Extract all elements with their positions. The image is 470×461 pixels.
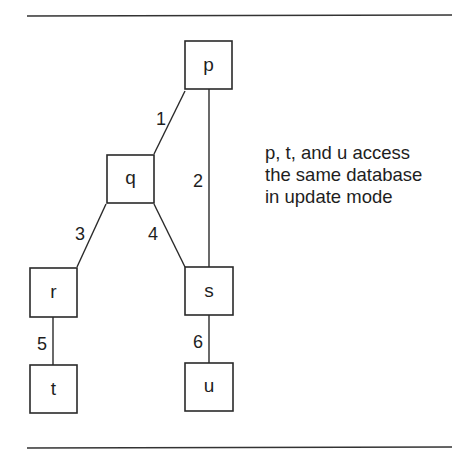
node-t: t bbox=[30, 365, 77, 413]
database-note: p, t, and u access the same database in … bbox=[265, 142, 422, 208]
node-label-q: q bbox=[125, 167, 136, 188]
node-q: q bbox=[107, 155, 154, 203]
edge-label-6: 6 bbox=[193, 332, 203, 352]
edge-label-2: 2 bbox=[193, 171, 203, 191]
edge-4: 4 bbox=[148, 204, 185, 267]
node-p: p bbox=[185, 41, 232, 89]
node-u: u bbox=[185, 363, 233, 411]
node-label-t: t bbox=[51, 378, 57, 399]
note-line-3: in update mode bbox=[265, 186, 422, 208]
edge-1: 1 bbox=[154, 91, 185, 154]
note-line-1: p, t, and u access bbox=[265, 142, 422, 164]
edge-label-5: 5 bbox=[37, 334, 47, 354]
edge-label-1: 1 bbox=[156, 109, 166, 129]
node-label-p: p bbox=[203, 54, 214, 75]
node-label-u: u bbox=[204, 375, 215, 396]
process-graph-diagram: 1 2 3 4 5 6 p q r s t u bbox=[0, 0, 470, 461]
node-label-r: r bbox=[50, 281, 57, 302]
node-label-s: s bbox=[204, 280, 214, 301]
node-s: s bbox=[185, 267, 233, 315]
edge-label-3: 3 bbox=[75, 224, 85, 244]
bottom-rule bbox=[27, 447, 452, 448]
edge-3: 3 bbox=[75, 204, 106, 267]
top-rule bbox=[27, 15, 452, 16]
note-line-2: the same database bbox=[265, 164, 422, 186]
edge-label-4: 4 bbox=[148, 224, 158, 244]
edge-5: 5 bbox=[37, 317, 53, 365]
node-r: r bbox=[30, 268, 77, 317]
edge-6: 6 bbox=[193, 315, 209, 363]
edge-2: 2 bbox=[193, 89, 209, 267]
